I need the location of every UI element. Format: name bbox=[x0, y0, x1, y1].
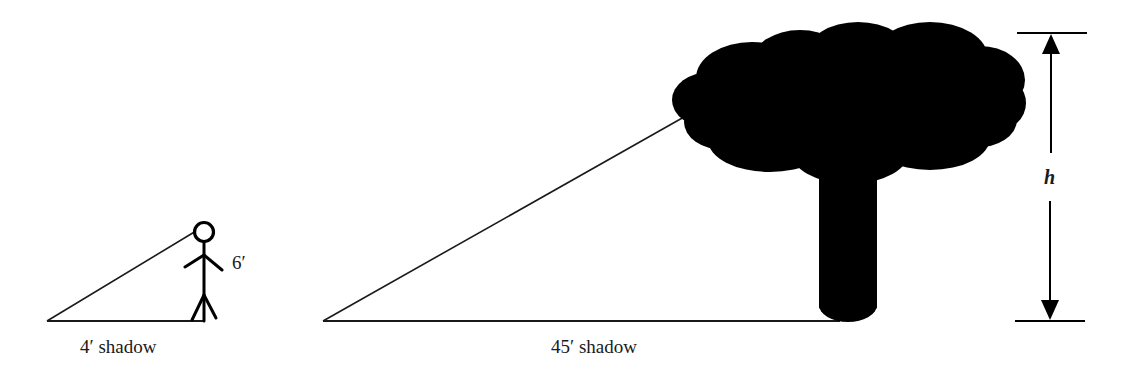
person-height-label: 6′ bbox=[232, 252, 246, 274]
tree-height-label: h bbox=[1044, 166, 1055, 189]
person-shadow-triangle bbox=[47, 231, 204, 321]
tree-silhouette-icon bbox=[672, 22, 1026, 322]
stick-figure-icon bbox=[185, 223, 222, 322]
shadow-diagram: 6′ 4′ shadow 45′ shadow h bbox=[0, 0, 1124, 370]
tree-shadow-label: 45′ shadow bbox=[551, 336, 637, 358]
person-shadow-label: 4′ shadow bbox=[80, 336, 156, 358]
